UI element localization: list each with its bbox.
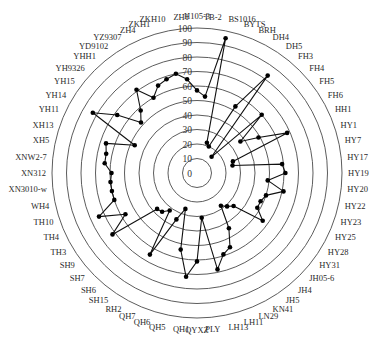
data-point	[110, 232, 115, 237]
data-point	[219, 204, 224, 209]
category-label: HY19	[348, 168, 369, 178]
data-point	[148, 252, 153, 257]
data-point	[225, 204, 230, 209]
data-point	[104, 151, 109, 156]
data-point	[167, 208, 172, 213]
category-label: HY20	[347, 184, 368, 194]
category-label: FH4	[309, 63, 325, 73]
category-label: ZKH10	[140, 14, 166, 24]
data-point	[207, 144, 212, 149]
category-label: YD9102	[79, 41, 108, 51]
data-point	[199, 215, 204, 220]
radial-tick-label: 80	[183, 53, 193, 63]
data-point	[174, 71, 179, 76]
category-label: YH11	[39, 104, 59, 114]
data-point	[139, 120, 144, 125]
category-label: HH1	[335, 104, 352, 114]
data-point	[91, 111, 96, 116]
category-label: QH5	[149, 322, 166, 332]
data-point	[104, 141, 109, 146]
grid-ring	[67, 43, 328, 304]
data-point	[109, 171, 114, 176]
data-point	[134, 87, 139, 92]
data-point	[185, 77, 190, 82]
category-label: HY31	[319, 260, 340, 270]
data-point	[156, 83, 161, 88]
category-label: TH4	[44, 232, 60, 242]
data-point	[223, 36, 228, 41]
category-label: HY25	[335, 232, 356, 242]
category-label: HY28	[328, 247, 349, 257]
category-label: YZ9307	[93, 32, 121, 42]
category-label: HY23	[341, 217, 362, 227]
category-label: XN3010-w	[9, 184, 48, 194]
grid-ring	[139, 115, 255, 231]
category-label: TH3	[51, 247, 67, 257]
data-point	[255, 206, 260, 211]
category-label: JH4	[298, 285, 312, 295]
grid-ring	[110, 86, 284, 260]
data-point	[97, 214, 102, 219]
data-point	[112, 198, 117, 203]
data-point	[230, 163, 235, 168]
category-label: TH10	[34, 217, 54, 227]
grid-rings	[52, 28, 342, 318]
data-point	[108, 180, 113, 185]
data-point	[256, 135, 261, 140]
data-point	[155, 207, 160, 212]
data-point	[184, 275, 189, 280]
data-point	[259, 113, 264, 118]
radial-tick-label: 20	[183, 140, 193, 150]
radar-chart: 0102030405060708090100 H105-3TB-2BS1016B…	[0, 0, 378, 346]
data-point	[183, 207, 188, 212]
category-label: FH5	[319, 76, 334, 86]
data-point	[123, 212, 128, 217]
category-label: TB-2	[204, 12, 222, 22]
category-label: ZH1	[173, 12, 189, 22]
data-point	[215, 267, 220, 272]
category-label: HY7	[345, 135, 362, 145]
category-label: QH7	[119, 311, 136, 321]
data-point	[281, 189, 286, 194]
radial-tick-label: 10	[183, 154, 193, 164]
data-point	[102, 161, 107, 166]
category-label: HY22	[345, 201, 366, 211]
radial-tick-label: 0	[187, 169, 192, 179]
data-point	[228, 245, 233, 250]
data-point	[283, 171, 288, 176]
category-label: XN312	[21, 168, 46, 178]
data-point	[209, 155, 214, 160]
category-label: SH6	[81, 285, 96, 295]
data-point	[285, 131, 290, 136]
data-point	[132, 143, 137, 148]
category-label: HY1	[341, 120, 358, 130]
category-label: YH14	[45, 90, 67, 100]
category-label: FH6	[328, 90, 343, 100]
data-point	[258, 199, 263, 204]
grid-ring	[154, 130, 241, 217]
radial-tick-label: 40	[183, 111, 193, 121]
data-point	[138, 108, 143, 113]
data-point	[110, 189, 115, 194]
category-label: XH13	[33, 120, 54, 130]
data-point	[233, 104, 238, 109]
data-point	[164, 77, 169, 82]
radial-tick-label: 90	[183, 38, 193, 48]
radial-tick-label: 30	[183, 125, 193, 135]
data-point	[238, 139, 243, 144]
category-label: YHH1	[73, 51, 96, 61]
data-point	[231, 159, 236, 164]
category-label: WH4	[31, 201, 50, 211]
category-label: YH15	[54, 76, 75, 86]
category-label: RH2	[105, 304, 121, 314]
radar-chart-canvas: 0102030405060708090100 H105-3TB-2BS1016B…	[0, 0, 378, 346]
data-point	[265, 73, 270, 78]
category-label: XH5	[33, 135, 50, 145]
data-point	[264, 193, 269, 198]
data-point	[231, 204, 236, 209]
category-label: HY17	[347, 152, 368, 162]
data-point	[227, 226, 232, 231]
grid-ring	[125, 101, 270, 246]
data-point	[195, 88, 200, 93]
category-label: LH13	[228, 322, 248, 332]
